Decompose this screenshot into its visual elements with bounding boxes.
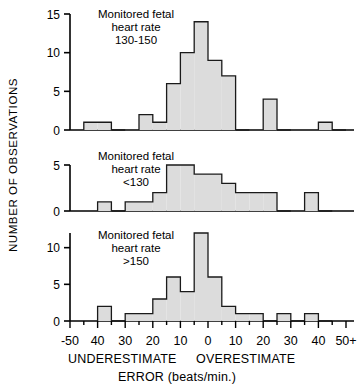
histogram-bar [180, 292, 194, 321]
histogram-bar [153, 299, 167, 321]
y-axis-label-text: NUMBER OF OBSERVATIONS [7, 78, 19, 252]
histogram-bar [249, 314, 263, 321]
panel-title-line: heart rate [66, 163, 206, 176]
x-tick-label: 30 [118, 334, 132, 348]
histogram-bar [153, 193, 167, 211]
panel-title-line: heart rate [66, 242, 206, 255]
histogram-bar [98, 202, 112, 211]
panel-title: Monitored fetalheart rate<130 [66, 150, 206, 189]
histogram-bar [305, 314, 319, 321]
histogram-bar [208, 60, 222, 130]
y-tick-label: 5 [53, 278, 60, 292]
y-tick-label: 5 [53, 85, 60, 99]
y-tick-label: 15 [47, 8, 61, 22]
x-tick-label: 10 [173, 334, 187, 348]
panel-title-line: heart rate [66, 21, 206, 34]
y-tick-label: 0 [53, 124, 60, 138]
histogram-bar [98, 122, 112, 130]
histogram-bar [263, 193, 277, 211]
x-tick-label: 40 [91, 334, 105, 348]
x-tick-label: 20 [256, 334, 270, 348]
y-tick-label: 10 [47, 46, 61, 60]
panel-title-line: 130-150 [66, 34, 206, 47]
panel-title-line: Monitored fetal [66, 150, 206, 163]
histogram-bar [222, 306, 236, 321]
panel-monitored-under-130: 05 Monitored fetalheart rate<130 [26, 145, 354, 225]
panel-title: Monitored fetalheart rate>150 [66, 229, 206, 268]
x-tick-label: 50+ [335, 334, 356, 348]
histogram-bar [167, 277, 181, 321]
histogram-bar [139, 202, 153, 211]
x-axis-title: ERROR (beats/min.) [0, 370, 354, 384]
histogram-bar [98, 306, 112, 321]
x-tick-label: 20 [146, 334, 160, 348]
panel-title-line: Monitored fetal [66, 8, 206, 21]
histogram-bar [318, 122, 332, 130]
x-tick-label: 10 [229, 334, 243, 348]
panel-monitored-over-150: 0510 Monitored fetalheart rate>150 [26, 225, 354, 335]
y-tick-label: 5 [53, 159, 60, 173]
histogram-bar [236, 314, 250, 321]
histogram-bar [208, 174, 222, 211]
histogram-bar [208, 277, 222, 321]
histogram-bar [139, 314, 153, 321]
panel-title-line: Monitored fetal [66, 229, 206, 242]
x-tick-label: 30 [284, 334, 298, 348]
histogram-bar [139, 115, 153, 130]
overestimate-caption: OVERESTIMATE [196, 352, 295, 366]
y-tick-label: 0 [53, 205, 60, 219]
x-tick-label: 40 [311, 334, 325, 348]
histogram-bar [84, 122, 98, 130]
x-axis-tick-labels: -504030201001020304050+ [26, 334, 354, 350]
histogram-bar [222, 76, 236, 130]
panel-monitored-130-150: 051015 Monitored fetalheart rate130-150 [26, 0, 354, 145]
histogram-bar [125, 202, 139, 211]
x-tick-label: -50 [61, 334, 79, 348]
y-axis-label: NUMBER OF OBSERVATIONS [0, 0, 26, 330]
histogram-bar [236, 193, 250, 211]
histogram-bar [249, 193, 263, 211]
histogram-bar [167, 84, 181, 130]
underestimate-caption: UNDERESTIMATE [68, 352, 177, 366]
panel-title-line: <130 [66, 176, 206, 189]
panel-title-line: >150 [66, 255, 206, 268]
y-tick-label: 0 [53, 315, 60, 329]
histogram-bar [277, 314, 291, 321]
histogram-bar [263, 99, 277, 130]
histogram-bar [180, 53, 194, 130]
histogram-bar [125, 314, 139, 321]
histogram-bar [222, 183, 236, 211]
histogram-bar [153, 122, 167, 130]
histogram-bar [305, 193, 319, 211]
y-tick-label: 10 [47, 241, 61, 255]
x-tick-label: 0 [205, 334, 212, 348]
panel-title: Monitored fetalheart rate130-150 [66, 8, 206, 47]
